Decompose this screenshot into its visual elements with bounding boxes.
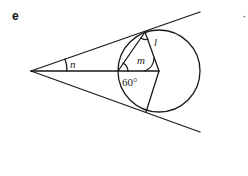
label-m: m	[137, 54, 145, 66]
angle-arc-m	[145, 58, 154, 71]
label-n: n	[70, 58, 76, 70]
angle-arc-n	[65, 59, 67, 71]
lower-tangent-line	[31, 71, 200, 132]
label-l: l	[154, 36, 157, 48]
upper-tangent-line	[31, 12, 200, 71]
geometry-diagram: n m l 60°	[0, 0, 248, 176]
radius-to-lower-tangent	[146, 71, 159, 112]
label-60-degrees: 60°	[122, 76, 137, 88]
angle-arc-60	[123, 63, 128, 71]
